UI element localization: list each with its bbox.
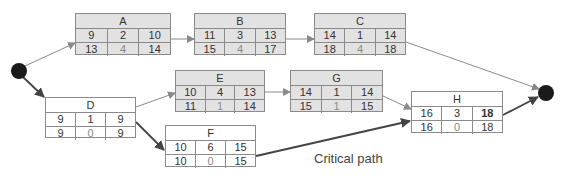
earliest-finish: 9 bbox=[105, 113, 135, 126]
duration: 6 bbox=[195, 141, 225, 154]
latest-start: 15 bbox=[291, 100, 321, 113]
earliest-start: 14 bbox=[291, 86, 321, 99]
edge-c-end bbox=[406, 42, 539, 89]
node-early-row: 10 4 13 bbox=[176, 86, 264, 99]
latest-finish: 14 bbox=[234, 100, 264, 113]
latest-start: 18 bbox=[315, 43, 344, 56]
duration: 4 bbox=[205, 86, 235, 99]
node-title: D bbox=[46, 98, 135, 113]
node-early-row: 11 3 13 bbox=[195, 29, 285, 42]
node-title: E bbox=[176, 71, 264, 86]
latest-finish: 14 bbox=[138, 43, 170, 56]
latest-start: 16 bbox=[412, 121, 441, 134]
duration: 3 bbox=[224, 29, 254, 42]
node-early-row: 14 1 14 bbox=[291, 86, 382, 99]
node-title: G bbox=[291, 71, 382, 86]
node-late-row: 10 0 15 bbox=[166, 154, 255, 168]
slack: 1 bbox=[321, 100, 352, 113]
earliest-start: 11 bbox=[195, 29, 224, 42]
node-early-row: 9 2 10 bbox=[76, 29, 170, 42]
node-g: G 14 1 14 15 1 15 bbox=[290, 70, 383, 112]
network-diagram: A 9 2 10 13 4 14 B 11 3 13 15 4 17 C 14 … bbox=[0, 0, 562, 178]
latest-finish: 15 bbox=[225, 155, 255, 168]
duration: 1 bbox=[321, 86, 352, 99]
node-title: C bbox=[315, 14, 405, 29]
node-late-row: 9 0 9 bbox=[46, 126, 135, 140]
duration: 1 bbox=[75, 113, 105, 126]
node-title: B bbox=[195, 14, 285, 29]
node-early-row: 16 3 18 bbox=[412, 107, 502, 120]
node-early-row: 10 6 15 bbox=[166, 141, 255, 154]
edge-start-a bbox=[25, 43, 75, 66]
duration: 2 bbox=[107, 29, 139, 42]
earliest-finish: 18 bbox=[472, 107, 502, 120]
node-a: A 9 2 10 13 4 14 bbox=[75, 13, 171, 55]
edge-start-d bbox=[23, 77, 44, 97]
edge-d-f bbox=[136, 122, 164, 150]
edge-h-end bbox=[503, 97, 538, 115]
end-node-icon bbox=[538, 85, 554, 101]
latest-start: 13 bbox=[76, 43, 107, 56]
node-c: C 14 1 14 18 4 18 bbox=[314, 13, 406, 55]
node-title: F bbox=[166, 126, 255, 141]
earliest-start: 10 bbox=[176, 86, 205, 99]
edge-g-h bbox=[383, 96, 411, 109]
latest-finish: 9 bbox=[105, 127, 135, 140]
slack: 4 bbox=[344, 43, 374, 56]
latest-start: 15 bbox=[195, 43, 224, 56]
earliest-start: 9 bbox=[46, 113, 75, 126]
latest-finish: 15 bbox=[351, 100, 382, 113]
earliest-finish: 14 bbox=[351, 86, 382, 99]
node-late-row: 18 4 18 bbox=[315, 42, 405, 56]
duration: 1 bbox=[344, 29, 374, 42]
latest-start: 9 bbox=[46, 127, 75, 140]
earliest-finish: 13 bbox=[234, 86, 264, 99]
earliest-start: 14 bbox=[315, 29, 344, 42]
node-late-row: 13 4 14 bbox=[76, 42, 170, 56]
critical-path-label: Critical path bbox=[314, 151, 383, 166]
node-late-row: 11 1 14 bbox=[176, 99, 264, 113]
node-b: B 11 3 13 15 4 17 bbox=[194, 13, 286, 55]
start-node-icon bbox=[11, 63, 27, 79]
node-d: D 9 1 9 9 0 9 bbox=[45, 97, 136, 138]
node-title: A bbox=[76, 14, 170, 29]
node-e: E 10 4 13 11 1 14 bbox=[175, 70, 265, 112]
earliest-finish: 15 bbox=[225, 141, 255, 154]
earliest-start: 16 bbox=[412, 107, 441, 120]
slack: 0 bbox=[195, 155, 225, 168]
node-f: F 10 6 15 10 0 15 bbox=[165, 125, 256, 167]
latest-finish: 18 bbox=[375, 43, 405, 56]
duration: 3 bbox=[441, 107, 471, 120]
latest-start: 11 bbox=[176, 100, 205, 113]
node-late-row: 15 4 17 bbox=[195, 42, 285, 56]
earliest-start: 10 bbox=[166, 141, 195, 154]
latest-finish: 17 bbox=[255, 43, 285, 56]
slack: 1 bbox=[205, 100, 235, 113]
node-title: H bbox=[412, 92, 502, 107]
edge-d-e bbox=[136, 93, 175, 107]
slack: 0 bbox=[441, 121, 471, 134]
earliest-finish: 13 bbox=[255, 29, 285, 42]
node-h: H 16 3 18 16 0 18 bbox=[411, 91, 503, 133]
node-early-row: 9 1 9 bbox=[46, 113, 135, 126]
earliest-finish: 10 bbox=[138, 29, 170, 42]
latest-start: 10 bbox=[166, 155, 195, 168]
node-late-row: 16 0 18 bbox=[412, 120, 502, 134]
earliest-start: 9 bbox=[76, 29, 107, 42]
node-late-row: 15 1 15 bbox=[291, 99, 382, 113]
slack: 4 bbox=[224, 43, 254, 56]
slack: 4 bbox=[107, 43, 139, 56]
earliest-finish: 14 bbox=[375, 29, 405, 42]
latest-finish: 18 bbox=[472, 121, 502, 134]
node-early-row: 14 1 14 bbox=[315, 29, 405, 42]
slack: 0 bbox=[75, 127, 105, 140]
